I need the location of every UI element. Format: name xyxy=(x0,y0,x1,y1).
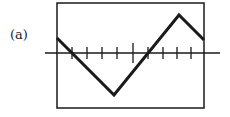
zigzag-graph-line xyxy=(57,15,204,95)
graph-diagram xyxy=(0,0,230,117)
